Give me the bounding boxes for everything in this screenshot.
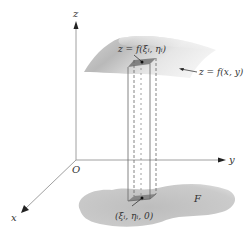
y-axis-label: y — [228, 154, 235, 165]
z-axis-label: z — [72, 8, 79, 19]
region-F — [79, 184, 235, 227]
y-axis-arrow-icon — [218, 158, 226, 163]
diagram-canvas: z y x O z = f(ξᵢ, ηᵢ) z = f(x, y) (ξᵢ, η… — [0, 0, 252, 240]
prism — [128, 58, 156, 201]
surface-label: z = f(x, y) — [198, 67, 244, 77]
origin-label: O — [72, 164, 80, 175]
base-point-label: (ξᵢ, ηᵢ, 0) — [115, 211, 154, 221]
region-label: F — [193, 193, 202, 204]
z-axis-arrow-icon — [74, 21, 79, 29]
x-axis — [25, 160, 76, 209]
surface-point-label: z = f(ξᵢ, ηᵢ) — [117, 44, 167, 54]
x-axis-label: x — [11, 212, 17, 223]
